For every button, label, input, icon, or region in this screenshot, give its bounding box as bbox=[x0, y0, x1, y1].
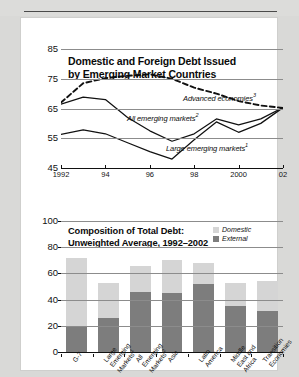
bar-chart-x-axis-labels: G-7LargeEmergingMarkets1AllEmergingMarke… bbox=[61, 354, 283, 377]
legend-item: Domestic bbox=[213, 226, 285, 233]
annotation-all-emerging-markets-footnote: 2 bbox=[195, 112, 198, 118]
annotation-large-emerging-markets-footnote: 1 bbox=[245, 142, 248, 148]
line-chart-title-line1: Domestic and Foreign Debt Issued bbox=[68, 55, 236, 67]
bar-chart-gridline bbox=[61, 326, 283, 327]
line-chart-y-tick-label: 85 bbox=[47, 44, 58, 54]
bar-chart-title: Composition of Total Debt: Unweighted Av… bbox=[68, 226, 226, 249]
legend-swatch bbox=[213, 227, 219, 233]
bar-segment-domestic bbox=[225, 283, 246, 307]
legend-item: External bbox=[213, 235, 285, 242]
legend-label: Domestic bbox=[222, 226, 251, 233]
legend-label: External bbox=[222, 235, 248, 242]
annotation-all-emerging-markets: All emerging markets2 bbox=[127, 112, 198, 123]
line-chart-x-tickmark bbox=[105, 165, 106, 168]
annotation-advanced-economies-footnote: 3 bbox=[253, 92, 256, 98]
header-rule bbox=[24, 11, 277, 12]
bar-chart-gridline bbox=[61, 247, 283, 248]
bar-chart-x-tickmark bbox=[188, 354, 189, 357]
line-chart-x-tickmark bbox=[239, 165, 240, 168]
bar-chart-gridline bbox=[61, 273, 283, 274]
bar-chart-y-tickmark bbox=[58, 300, 61, 301]
annotation-advanced-economies: Advanced economies3 bbox=[183, 92, 256, 103]
line-chart-x-tick-label: 02 bbox=[279, 170, 287, 179]
bar-chart-y-tickmark bbox=[58, 221, 61, 222]
scanned-page: Domestic and Foreign Debt Issued by Emer… bbox=[0, 0, 299, 377]
bar-chart-y-tickmark bbox=[58, 273, 61, 274]
line-chart-y-tick-label: 55 bbox=[47, 134, 58, 144]
bar-chart-y-tick-label: 40 bbox=[47, 295, 58, 305]
page-top-strip bbox=[0, 0, 299, 16]
faint-header-text bbox=[26, 1, 146, 8]
bar-chart-y-tickmark bbox=[58, 326, 61, 327]
line-chart-x-tick-label: 98 bbox=[190, 170, 198, 179]
annotation-advanced-economies-text: Advanced economies bbox=[183, 94, 253, 103]
bar-chart-y-tick-label: 60 bbox=[47, 269, 58, 279]
line-chart-axis-cap bbox=[61, 165, 62, 168]
line-chart-x-tickmark bbox=[150, 165, 151, 168]
line-chart-x-tickmark bbox=[283, 165, 284, 168]
line-chart-gridline bbox=[61, 138, 283, 139]
line-chart-x-tick-label: 94 bbox=[101, 170, 109, 179]
bar-chart-x-tickmark bbox=[93, 354, 94, 357]
annotation-large-emerging-markets: Large emerging markets1 bbox=[166, 142, 248, 153]
line-chart-x-tick-label: 96 bbox=[146, 170, 154, 179]
bar-chart-title-line2: Unweighted Average, 1992–2002 bbox=[68, 238, 208, 248]
legend-swatch bbox=[213, 236, 219, 242]
line-chart-x-tick-label: 1992 bbox=[53, 170, 70, 179]
bar-chart-x-tickmark bbox=[61, 354, 62, 357]
figure-panel: Domestic and Foreign Debt Issued by Emer… bbox=[21, 18, 277, 370]
annotation-large-emerging-markets-text: Large emerging markets bbox=[166, 144, 245, 153]
bar-chart-y-tickmark bbox=[58, 247, 61, 248]
line-chart-y-tick-label: 75 bbox=[47, 74, 58, 84]
line-chart: Domestic and Foreign Debt Issued by Emer… bbox=[61, 49, 283, 178]
line-chart-y-tick-label: 65 bbox=[47, 104, 58, 114]
bar-chart-y-tick-label: 100 bbox=[42, 216, 58, 226]
bar-chart-legend: DomesticExternal bbox=[213, 226, 285, 244]
line-chart-gridline bbox=[61, 49, 283, 50]
bar-segment-domestic bbox=[130, 266, 151, 292]
bar-chart-y-tick-label: 20 bbox=[47, 321, 58, 331]
line-chart-x-tick-label: 2000 bbox=[230, 170, 247, 179]
annotation-all-emerging-markets-text: All emerging markets bbox=[127, 114, 195, 123]
bar-segment-external bbox=[66, 327, 87, 352]
bar-chart: Composition of Total Debt: Unweighted Av… bbox=[61, 221, 283, 356]
bar-segment-external bbox=[162, 293, 183, 352]
bar-segment-domestic bbox=[162, 260, 183, 293]
bar-chart-gridline bbox=[61, 221, 283, 222]
bar-chart-y-tick-label: 80 bbox=[47, 242, 58, 252]
line-chart-gridline bbox=[61, 109, 283, 110]
bar-segment-domestic bbox=[66, 258, 87, 327]
bar-chart-title-line1: Composition of Total Debt: bbox=[68, 226, 184, 236]
line-chart-title: Domestic and Foreign Debt Issued by Emer… bbox=[68, 55, 268, 81]
bar-chart-gridline bbox=[61, 300, 283, 301]
line-chart-gridline bbox=[61, 79, 283, 80]
line-chart-axis-line bbox=[61, 168, 283, 169]
bar-segment-domestic bbox=[257, 281, 278, 311]
line-chart-x-tickmark bbox=[194, 165, 195, 168]
